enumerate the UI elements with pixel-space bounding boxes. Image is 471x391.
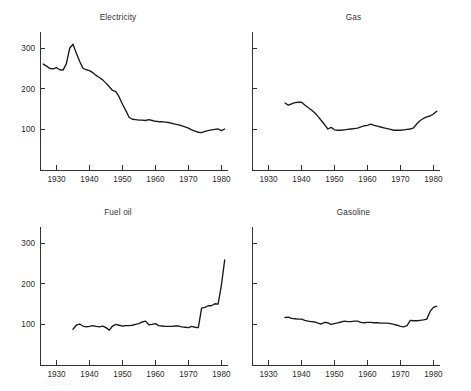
axis-spine xyxy=(252,227,440,365)
x-axis-tick-label: 1960 xyxy=(358,370,377,379)
x-axis-tick-label: 1970 xyxy=(179,175,198,184)
x-axis-tick-label: 1930 xyxy=(259,175,278,184)
x-axis-tick-label: 1930 xyxy=(47,175,66,184)
y-axis-tick-label: 300 xyxy=(21,44,35,53)
x-axis-tick-label: 1960 xyxy=(358,175,377,184)
data-series-line xyxy=(285,102,437,130)
x-axis-tick-label: 1930 xyxy=(259,370,278,379)
x-axis-tick-label: 1960 xyxy=(146,175,165,184)
chart-title-electricity: Electricity xyxy=(0,13,236,22)
data-series-line xyxy=(73,260,225,330)
data-series-line xyxy=(285,306,437,327)
chart-plot-area-fuel-oil: 100200300193019401950196019701980 xyxy=(0,195,236,391)
chart-panel-fuel-oil: Fuel oil10020030019301940195019601970198… xyxy=(0,195,236,391)
x-axis-tick-label: 1950 xyxy=(113,175,132,184)
y-axis-tick-label: 100 xyxy=(21,125,35,134)
axis-spine xyxy=(252,32,440,170)
x-axis-tick-label: 1950 xyxy=(325,175,344,184)
chart-plot-area-gas: 193019401950196019701980 xyxy=(236,0,471,196)
x-axis-tick-label: 1970 xyxy=(391,370,410,379)
x-axis-tick-label: 1980 xyxy=(212,175,231,184)
chart-title-fuel-oil: Fuel oil xyxy=(0,208,236,217)
chart-panel-gas: Gas193019401950196019701980 xyxy=(236,0,471,196)
x-axis-tick-label: 1980 xyxy=(424,175,443,184)
chart-plot-area-electricity: 100200300193019401950196019701980 xyxy=(0,0,236,196)
axis-spine xyxy=(40,227,228,365)
chart-title-gasoline: Gasoline xyxy=(236,208,471,217)
x-axis-tick-label: 1950 xyxy=(325,370,344,379)
x-axis-tick-label: 1940 xyxy=(80,370,99,379)
data-series-line xyxy=(43,44,224,132)
chart-panel-gasoline: Gasoline193019401950196019701980 xyxy=(236,195,471,391)
x-axis-tick-label: 1950 xyxy=(113,370,132,379)
y-axis-tick-label: 100 xyxy=(21,320,35,329)
x-axis-tick-label: 1980 xyxy=(212,370,231,379)
figure-caption: Figure 1 xyxy=(44,379,72,386)
x-axis-tick-label: 1960 xyxy=(146,370,165,379)
x-axis-tick-label: 1940 xyxy=(292,175,311,184)
y-axis-tick-label: 300 xyxy=(21,239,35,248)
chart-panel-electricity: Electricity10020030019301940195019601970… xyxy=(0,0,236,196)
x-axis-tick-label: 1970 xyxy=(391,175,410,184)
y-axis-tick-label: 200 xyxy=(21,280,35,289)
y-axis-tick-label: 200 xyxy=(21,85,35,94)
chart-title-gas: Gas xyxy=(236,13,471,22)
four-panel-price-index-figure: Electricity10020030019301940195019601970… xyxy=(0,0,471,391)
x-axis-tick-label: 1940 xyxy=(80,175,99,184)
x-axis-tick-label: 1980 xyxy=(424,370,443,379)
x-axis-tick-label: 1970 xyxy=(179,370,198,379)
x-axis-tick-label: 1930 xyxy=(47,370,66,379)
chart-plot-area-gasoline: 193019401950196019701980 xyxy=(236,195,471,391)
x-axis-tick-label: 1940 xyxy=(292,370,311,379)
